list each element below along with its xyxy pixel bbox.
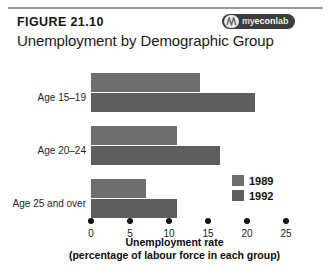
axis-title-line-1: Unemployment rate (0, 236, 331, 249)
myeconlab-badge[interactable]: my econ lab (222, 14, 295, 29)
legend-item-1992: 1992 (232, 189, 273, 202)
bar-1989-age-20-24 (91, 126, 177, 145)
legend-label-1992: 1992 (249, 190, 273, 202)
axis-tick-dot-5 (127, 218, 133, 224)
legend-item-1989: 1989 (232, 174, 273, 187)
axis-tick-dot-10 (166, 218, 172, 224)
figure-header: FIGURE 21.10 Unemployment by Demographic… (0, 10, 331, 58)
legend-label-1989: 1989 (249, 175, 273, 187)
badge-lab-text: lab (275, 17, 288, 26)
figure-number: FIGURE 21.10 (17, 15, 104, 29)
axis-tick-dot-20 (244, 218, 250, 224)
axis-title-line-2: (percentage of labour force in each grou… (0, 249, 331, 262)
bar-1992-age-15-19 (91, 93, 255, 112)
bar-1989-age-15-19 (91, 73, 200, 92)
badge-my-text: my (242, 17, 254, 26)
legend: 1989 1992 (232, 174, 273, 204)
category-label-age-20-24: Age 20–24 (0, 140, 86, 158)
bar-1992-age-25-and-over (91, 199, 177, 218)
axis-tick-dot-25 (283, 218, 289, 224)
bar-1989-age-25-and-over (91, 179, 146, 198)
legend-swatch-1989 (232, 175, 244, 186)
category-label-age-15-19: Age 15–19 (0, 87, 86, 105)
badge-econ-text: econ (254, 17, 275, 26)
bar-chart: Age 15–19 Age 20–24 Age 25 and over 1989… (0, 58, 331, 268)
page-title: Unemployment by Demographic Group (17, 32, 274, 49)
category-label-age-25-and-over: Age 25 and over (0, 193, 86, 211)
myeconlab-mark-icon (224, 15, 239, 28)
legend-swatch-1992 (232, 190, 244, 201)
axis-tick-dot-0 (88, 218, 94, 224)
axis-title: Unemployment rate (percentage of labour … (0, 236, 331, 261)
figure-card: FIGURE 21.10 Unemployment by Demographic… (0, 0, 331, 268)
header-divider (8, 7, 323, 9)
axis-tick-dot-15 (205, 218, 211, 224)
bar-1992-age-20-24 (91, 146, 220, 165)
